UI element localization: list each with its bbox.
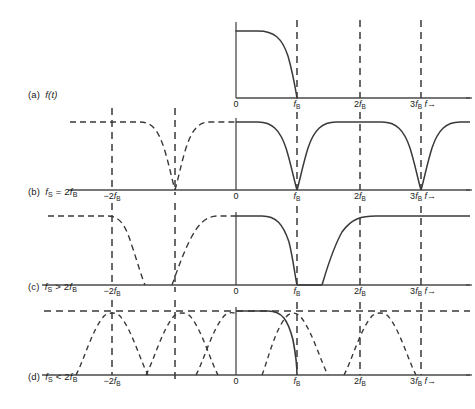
panel-c-tick-3fb: 3fB f→ — [410, 286, 436, 296]
panel-b-tick-zero: 0 — [233, 191, 238, 201]
panel-d-replica-neg1 — [146, 313, 218, 375]
panel-a-tick-2fb: 2fB — [354, 99, 366, 109]
panel-b-baseband-curve — [236, 122, 297, 190]
panel-d-baseband-curve — [236, 311, 297, 375]
panel-c-tick-neg2fb: −2fB — [103, 286, 120, 296]
panel-c-baseband-curve — [236, 216, 297, 285]
panel-c-tick-2fb: 2fB — [354, 286, 366, 296]
panel-c-label: (c)fS > 2fB — [28, 281, 77, 292]
panel-d-graph — [42, 300, 472, 382]
panel-b-tag: (b) — [28, 186, 40, 197]
panel-a-tick-3fb: 3fB f→ — [410, 99, 436, 109]
figure-canvas — [0, 0, 475, 409]
panel-a-label: (a)f(t) — [28, 89, 58, 100]
panel-a-baseband-curve — [236, 31, 297, 98]
panel-b-tick-2fb: 2fB — [354, 191, 366, 201]
panel-c-baseband-mirror — [172, 216, 236, 285]
panel-b-replica-plus2-tail — [421, 122, 470, 190]
sampling-spectra-figure: (a)f(t) (b)fS = 2fB (c)fS > 2fB (d)fS < … — [0, 0, 475, 409]
panel-b-replica-plus1 — [297, 122, 421, 190]
panel-d-replica-neg-partial — [196, 313, 236, 375]
panel-b-baseband-mirror — [175, 122, 236, 190]
panel-b-tick-neg2fb: −2fB — [103, 191, 120, 201]
panel-a-tick-fb: fB — [294, 99, 301, 109]
panel-c-replica-plus1 — [322, 216, 470, 285]
panel-a-tick-zero: 0 — [233, 99, 238, 109]
panel-d-replica-plus2 — [344, 313, 416, 375]
panel-a-graph — [236, 20, 472, 98]
panel-d-tag: (d) — [28, 371, 40, 382]
panel-c-graph — [42, 203, 472, 292]
panel-b-graph — [68, 108, 472, 195]
panel-c-tick-zero: 0 — [233, 286, 238, 296]
panel-d-tick-3fb: 3fB f→ — [410, 376, 436, 386]
panel-d-label: (d)fS < 2fB — [28, 371, 78, 382]
panel-d-tick-2fb: 2fB — [354, 376, 366, 386]
panel-a-tag: (a) — [28, 89, 40, 100]
panel-d-replica-plus1 — [262, 313, 328, 375]
panel-d-tick-zero: 0 — [233, 376, 238, 386]
panel-d-tick-fb: fB — [294, 376, 301, 386]
panel-b-tick-fb: fB — [294, 191, 301, 201]
panel-c-tag: (c) — [28, 281, 40, 292]
panel-b-replica-negative — [70, 122, 175, 190]
panel-d-tick-neg2fb: −2fB — [103, 376, 120, 386]
panel-a-label-text: f(t) — [45, 89, 57, 100]
panel-c-tick-fb: fB — [294, 286, 301, 296]
panel-b-label: (b)fS = 2fB — [28, 186, 78, 197]
panel-c-replica-negative — [48, 216, 145, 285]
panel-b-tick-3fb: 3fB f→ — [410, 191, 436, 201]
